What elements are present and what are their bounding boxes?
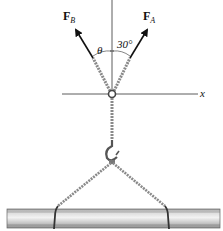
ring: [109, 91, 116, 98]
beam: [7, 209, 220, 228]
force-b-label: FB: [63, 10, 75, 22]
force-a-arrow: [130, 30, 147, 58]
x-axis-label: x: [200, 88, 205, 99]
force-b-subscript: B: [70, 16, 75, 25]
upper-chain: [93, 58, 130, 91]
thirty-degree-label: 30°: [117, 39, 132, 50]
theta-label: θ: [97, 45, 102, 56]
hook: [106, 140, 119, 164]
sling-chains: [58, 163, 165, 206]
force-diagram: [0, 0, 223, 231]
force-a-subscript: A: [150, 16, 155, 25]
force-b-arrow: [76, 30, 93, 58]
force-a-label: FA: [143, 10, 155, 22]
thirty-deg-arc: [113, 51, 130, 56]
